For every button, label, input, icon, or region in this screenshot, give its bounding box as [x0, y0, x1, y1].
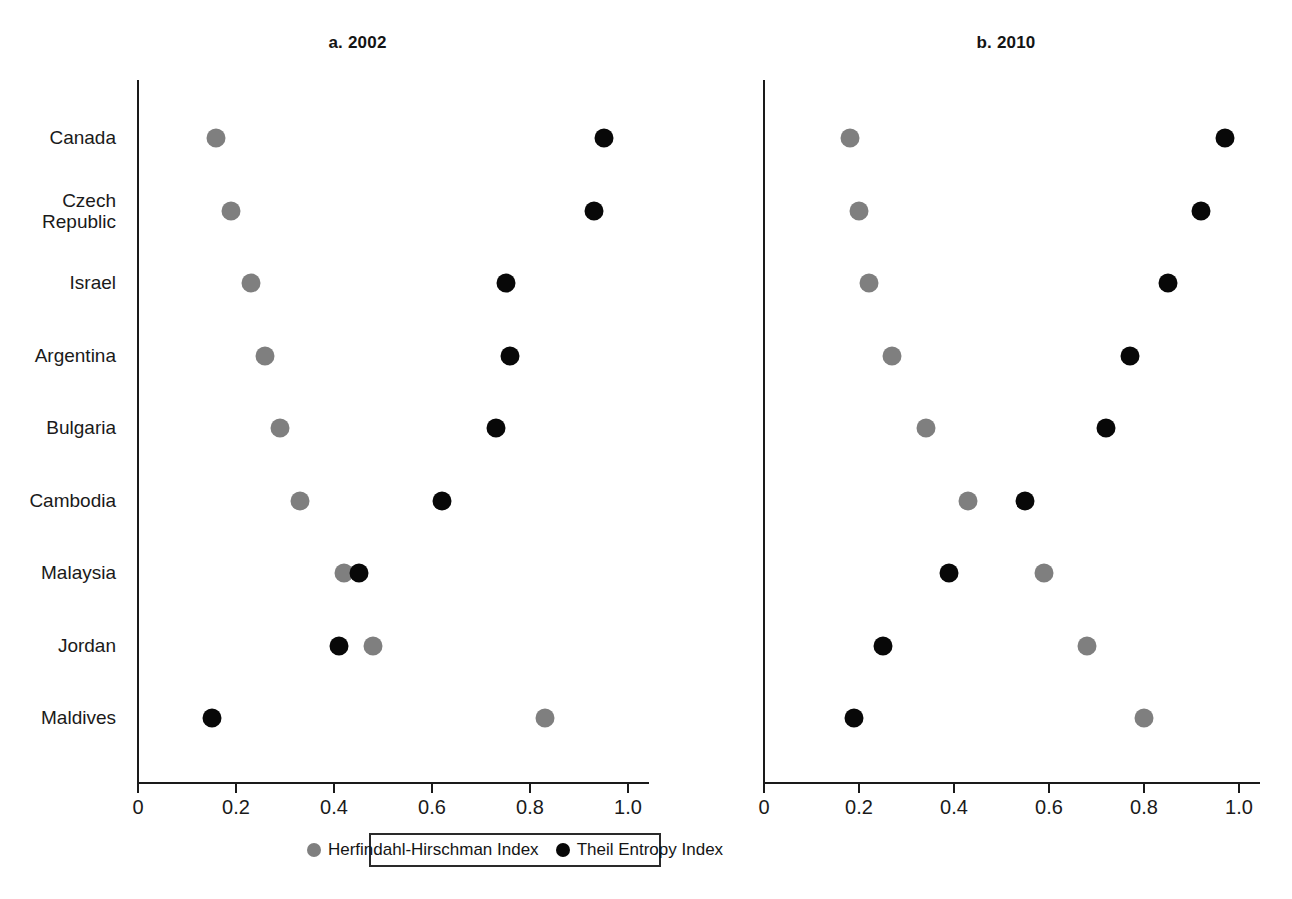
category-label: Malaysia	[41, 562, 116, 583]
x-axis-tick	[137, 784, 139, 793]
x-axis-tick-label: 0	[132, 796, 143, 819]
data-point	[486, 419, 505, 438]
x-axis-line	[137, 782, 649, 784]
x-axis-tick	[858, 784, 860, 793]
x-axis-tick-label: 0.6	[418, 796, 446, 819]
category-label: Czech Republic	[42, 189, 116, 232]
x-axis-tick-label: 0.8	[1130, 796, 1158, 819]
panel-2010: b. 2010 00.20.40.60.81.0CanadaCzech Repu…	[660, 0, 1292, 830]
data-point	[535, 709, 554, 728]
x-axis-tick	[627, 784, 629, 793]
data-point	[1097, 419, 1116, 438]
data-point	[594, 129, 613, 148]
data-point	[1016, 491, 1035, 510]
x-axis-tick-label: 0.6	[1035, 796, 1063, 819]
legend-label-hhi: Herfindahl-Hirschman Index	[328, 840, 539, 860]
data-point	[916, 419, 935, 438]
panel-a-title: a. 2002	[0, 33, 660, 53]
legend-swatch-theil-circle-icon	[556, 843, 570, 857]
data-point	[873, 636, 892, 655]
x-axis-tick-label: 1.0	[614, 796, 642, 819]
panel-2002: a. 2002 00.20.40.60.81.0Czech RepublicCa…	[0, 0, 660, 830]
data-point	[1192, 201, 1211, 220]
category-label: Canada	[49, 127, 116, 148]
data-point	[290, 491, 309, 510]
x-axis-tick	[953, 784, 955, 793]
data-point	[364, 636, 383, 655]
x-axis-tick	[333, 784, 335, 793]
data-point	[207, 129, 226, 148]
category-label: Maldives	[41, 707, 116, 728]
data-point	[1135, 709, 1154, 728]
data-point	[501, 346, 520, 365]
data-point	[1035, 564, 1054, 583]
legend-label-theil: Theil Entropy Index	[577, 840, 723, 860]
x-axis-tick	[1143, 784, 1145, 793]
legend-item-theil: Theil Entropy Index	[556, 840, 723, 860]
x-axis-tick-label: 0.2	[222, 796, 250, 819]
data-point	[256, 346, 275, 365]
data-point	[959, 491, 978, 510]
data-point	[883, 346, 902, 365]
legend: Herfindahl-Hirschman Index Theil Entropy…	[369, 833, 661, 867]
x-axis-tick	[529, 784, 531, 793]
y-axis-line	[763, 80, 765, 782]
category-label: Israel	[70, 272, 116, 293]
category-label: Jordan	[58, 635, 116, 656]
x-axis-tick	[1048, 784, 1050, 793]
legend-item-hhi: Herfindahl-Hirschman Index	[307, 840, 539, 860]
x-axis-tick	[235, 784, 237, 793]
data-point	[845, 709, 864, 728]
panel-b-title: b. 2010	[660, 33, 1292, 53]
category-label: Cambodia	[29, 490, 116, 511]
data-point	[584, 201, 603, 220]
y-axis-line	[137, 80, 139, 782]
legend-swatch-hhi-circle-icon	[307, 843, 321, 857]
data-point	[840, 129, 859, 148]
x-axis-tick-label: 0.8	[516, 796, 544, 819]
category-label: Bulgaria	[46, 417, 116, 438]
data-point	[349, 564, 368, 583]
data-point	[222, 201, 241, 220]
data-point	[859, 274, 878, 293]
data-point	[1215, 129, 1234, 148]
data-point	[496, 274, 515, 293]
x-axis-tick	[1238, 784, 1240, 793]
data-point	[241, 274, 260, 293]
data-point	[940, 564, 959, 583]
x-axis-tick-label: 0.2	[845, 796, 873, 819]
data-point	[1078, 636, 1097, 655]
data-point	[271, 419, 290, 438]
data-point	[850, 201, 869, 220]
x-axis-tick-label: 1.0	[1225, 796, 1253, 819]
x-axis-line	[763, 782, 1260, 784]
data-point	[202, 709, 221, 728]
data-point	[1158, 274, 1177, 293]
figure-root: a. 2002 00.20.40.60.81.0Czech RepublicCa…	[0, 0, 1292, 899]
data-point	[432, 491, 451, 510]
data-point	[1120, 346, 1139, 365]
data-point	[329, 636, 348, 655]
x-axis-tick	[763, 784, 765, 793]
x-axis-tick-label: 0	[758, 796, 769, 819]
x-axis-tick-label: 0.4	[940, 796, 968, 819]
category-label: Argentina	[35, 345, 116, 366]
x-axis-tick	[431, 784, 433, 793]
x-axis-tick-label: 0.4	[320, 796, 348, 819]
